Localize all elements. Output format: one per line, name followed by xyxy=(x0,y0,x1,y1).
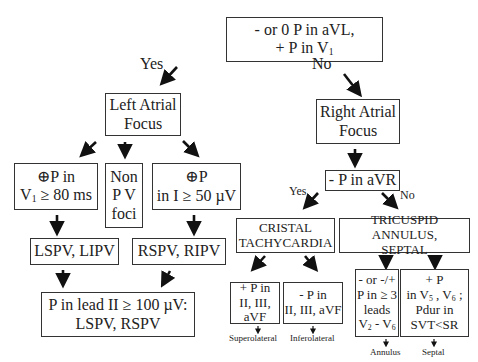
cristal-tachycardia-box: CRISTAL TACHYCARDIA xyxy=(236,218,335,253)
avr-criterion-box: - P in aVR xyxy=(325,170,400,191)
plus-circle-icon: ⊕ xyxy=(185,168,198,185)
cristal-sub-a-result: Superolateral xyxy=(229,333,277,343)
branch-label-no-right: No xyxy=(400,188,415,203)
cristal-sub-b-result: Inferolateral xyxy=(290,333,334,343)
branch-label-no-top: No xyxy=(312,55,332,73)
right-atrial-focus-box: Right Atrial Focus xyxy=(316,99,400,144)
plus-circle-icon: ⊕ xyxy=(37,168,50,185)
left-atrial-focus-box: Left Atrial Focus xyxy=(105,93,181,136)
cristal-sub-a-box: + P in II, III, aVF xyxy=(230,282,280,324)
tricuspid-sub-annulus-result: Annulus xyxy=(370,347,401,357)
cristal-sub-b-box: - P in II, III, aVF xyxy=(283,282,343,324)
flowchart-canvas: - or 0 P in aVL, + P in V1 Yes No Left A… xyxy=(0,0,478,362)
tricuspid-annulus-septal-box: TRICUSPID ANNULUS, SEPTAL xyxy=(339,218,470,253)
left-criterion-b-box: Non P V foci xyxy=(105,163,143,228)
branch-label-yes-top: Yes xyxy=(140,55,163,73)
root-line1: - or 0 P in aVL, xyxy=(255,21,355,39)
left-criterion-c-box: ⊕P in I ≥ 50 µV xyxy=(152,163,241,210)
tricuspid-sub-septal-box: + P in V5 , V6 ; Pdur in SVT<SR xyxy=(400,269,469,337)
tricuspid-sub-septal-result: Septal xyxy=(422,347,445,357)
left-result-rspv-ripv-box: RSPV, RIPV xyxy=(132,238,226,265)
root-criterion-box: - or 0 P in aVL, + P in V1 xyxy=(226,17,383,62)
branch-label-yes-right: Yes xyxy=(289,184,306,199)
left-criterion-a-box: ⊕P in V1 ≥ 80 ms xyxy=(14,163,98,210)
tricuspid-sub-annulus-box: - or -/+ P in ≥ 3 leads V2 - V6 xyxy=(355,269,399,337)
left-final-box: P in lead II ≥ 100 µV: LSPV, RSPV xyxy=(41,292,195,337)
left-result-lspv-lipv-box: LSPV, LIPV xyxy=(30,238,119,265)
